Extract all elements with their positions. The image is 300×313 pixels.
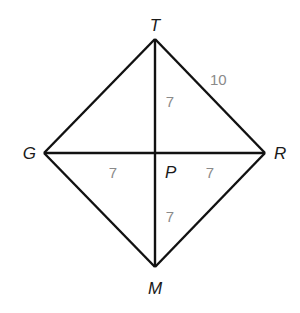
measure-GP: 7 — [109, 164, 117, 181]
vertex-label-R: R — [274, 144, 286, 163]
vertex-label-G: G — [23, 144, 36, 163]
vertex-label-P: P — [165, 163, 177, 182]
vertex-label-M: M — [148, 279, 163, 298]
measure-PR: 7 — [206, 164, 214, 181]
measure-PM: 7 — [166, 208, 174, 225]
side-GT — [44, 39, 155, 153]
rhombus-diagram: T R M G P 10 7 7 7 7 — [0, 0, 300, 313]
measure-TR: 10 — [210, 71, 227, 88]
side-MG — [44, 153, 155, 267]
vertex-label-T: T — [150, 16, 162, 35]
measure-TP: 7 — [166, 93, 174, 110]
